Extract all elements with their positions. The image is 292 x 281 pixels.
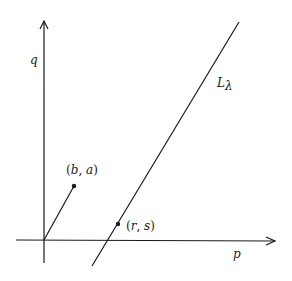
vector-segment [44, 186, 74, 240]
point-rs-dot [116, 222, 120, 226]
point-ba-label: (b, a) [66, 163, 98, 177]
line-label-subscript: λ [224, 79, 233, 93]
line-label: Lλ [216, 76, 233, 93]
line-l-lambda [92, 22, 239, 266]
p-axis [16, 240, 275, 241]
paren-close: ) [150, 219, 155, 233]
line-label-main: L [216, 76, 225, 90]
diagram-canvas: q p Lλ (b, a) (r, s) [0, 0, 292, 281]
paren-close: ) [93, 163, 98, 177]
p-axis-label: p [233, 247, 241, 261]
coord-a: a [86, 163, 93, 177]
q-axis-label: q [30, 53, 38, 67]
comma: , [136, 219, 144, 233]
point-rs-label: (r, s) [126, 219, 155, 233]
coord-b: b [71, 163, 79, 177]
point-ba-dot [72, 184, 76, 188]
comma: , [78, 163, 86, 177]
diagram-svg: q p Lλ (b, a) (r, s) [0, 0, 292, 281]
